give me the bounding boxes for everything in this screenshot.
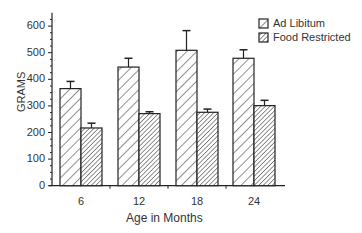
x-axis-label: Age in Months <box>126 211 203 225</box>
bars <box>60 31 275 186</box>
bar <box>254 100 275 185</box>
bar <box>233 50 254 186</box>
y-tick-label: 300 <box>0 99 45 111</box>
legend-swatch <box>259 19 268 28</box>
bar <box>197 109 218 186</box>
x-tick-label: 18 <box>182 195 212 207</box>
legend-label-ad-libitum: Ad Libitum <box>273 17 325 29</box>
bar <box>176 31 197 186</box>
y-tick-label: 600 <box>0 19 45 31</box>
x-tick-label: 12 <box>124 195 154 207</box>
y-tick-label: 100 <box>0 152 45 164</box>
bar <box>81 123 102 186</box>
bar <box>118 58 139 185</box>
legend-swatch <box>259 33 268 42</box>
y-tick-label: 500 <box>0 46 45 58</box>
legend <box>259 19 268 42</box>
y-tick-label: 0 <box>0 179 45 191</box>
x-tick-label: 6 <box>66 195 96 207</box>
y-tick-label: 400 <box>0 72 45 84</box>
bar <box>139 112 160 186</box>
x-tick-label: 24 <box>239 195 269 207</box>
bar <box>60 81 81 185</box>
y-tick-label: 200 <box>0 126 45 138</box>
legend-label-food-restricted: Food Restricted <box>273 31 351 43</box>
